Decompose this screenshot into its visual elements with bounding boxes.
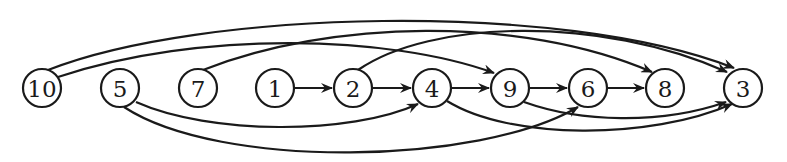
node-2: 2 (334, 69, 372, 107)
node-8: 8 (646, 69, 684, 107)
node-label: 7 (191, 76, 206, 102)
node-10: 10 (23, 69, 61, 107)
node-label: 5 (113, 76, 128, 102)
node-label: 8 (658, 76, 673, 102)
node-label: 9 (503, 76, 518, 102)
edge-7-to-8 (203, 31, 652, 72)
node-label: 3 (736, 76, 751, 102)
edge-5-to-6 (124, 107, 578, 152)
node-label: 1 (268, 76, 283, 102)
node-7: 7 (179, 69, 217, 107)
node-4: 4 (413, 69, 451, 107)
node-label: 2 (346, 76, 361, 102)
node-label: 4 (425, 76, 440, 102)
edges-layer (48, 21, 734, 152)
node-label: 6 (581, 76, 596, 102)
directed-graph: 10571249683 (0, 0, 787, 162)
node-9: 9 (491, 69, 529, 107)
node-label: 10 (27, 76, 56, 102)
node-3: 3 (724, 69, 762, 107)
node-5: 5 (101, 69, 139, 107)
node-1: 1 (256, 69, 294, 107)
edge-2-to-3 (358, 31, 727, 72)
node-6: 6 (569, 69, 607, 107)
